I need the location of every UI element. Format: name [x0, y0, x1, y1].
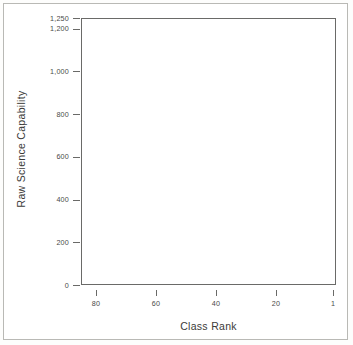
x-tick-label: 1	[318, 299, 348, 308]
x-tick-mark	[333, 290, 334, 296]
x-tick-mark	[216, 290, 217, 296]
chart-figure: Raw Science Capability Class Rank 020040…	[0, 0, 353, 345]
x-tick-label: 60	[141, 299, 171, 308]
x-tick-mark	[96, 290, 97, 296]
plot-frame	[81, 18, 336, 285]
x-tick-mark	[156, 290, 157, 296]
x-tick-label: 40	[201, 299, 231, 308]
x-tick-mark	[276, 290, 277, 296]
page-background: Raw Science Capability Class Rank 020040…	[0, 0, 353, 345]
x-tick-label: 80	[81, 299, 111, 308]
x-tick-label: 20	[261, 299, 291, 308]
